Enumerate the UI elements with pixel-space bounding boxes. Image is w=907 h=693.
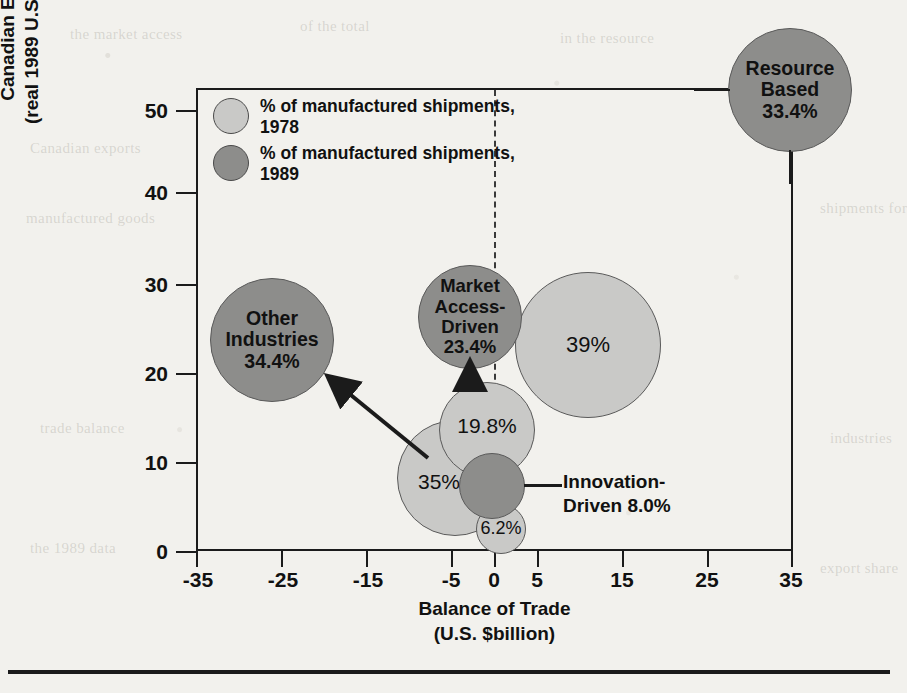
x-tick-label-35: 35 [767,568,815,592]
x-tick-mark--15 [366,551,368,567]
legend-swatch-dark-circle-icon [213,145,249,181]
x-tick-mark-15 [622,551,624,567]
x-axis-title-line2: (U.S. $billion) [196,622,793,647]
ghost-text: trade balance [40,420,125,437]
resource-based-leader-line-bottom [789,150,791,184]
y-tick-label-20: 20 [120,362,168,386]
other-industries-arrow [300,330,480,490]
x-tick-mark-35 [791,551,793,567]
bubble-resource-based[interactable]: Resource Based 33.4% [728,28,852,152]
ghost-text: the market access [70,26,183,43]
legend-item-1978: % of manufactured shipments, 1978 [213,96,515,137]
market-access-arrow [460,360,500,410]
x-tick-mark-25 [707,551,709,567]
x-tick-label-25: 25 [683,568,731,592]
y-tick-label-40: 40 [120,181,168,205]
bubble-market-access-1978[interactable]: 39% [515,272,661,418]
x-tick-mark--25 [281,551,283,567]
y-axis-title-line2: (real 1989 U.S. $billion) [20,0,44,150]
x-tick-label-15: 15 [598,568,646,592]
ghost-text: the 1989 data [30,540,116,557]
x-tick-mark--35 [196,551,198,567]
bubble-label-resource-based: Resource Based 33.4% [746,58,835,122]
y-tick-label-30: 30 [120,273,168,297]
y-tick-mark-0 [176,551,196,553]
x-tick-label--35: -35 [170,568,226,592]
legend-label-1989: % of manufactured shipments, 1989 [260,143,515,184]
y-tick-label-0: 0 [120,540,168,564]
x-tick-mark--5 [451,551,453,567]
y-tick-label-10: 10 [120,451,168,475]
ghost-text: manufactured goods [26,210,155,227]
y-axis-title-line1: Canadian Exports [0,0,20,150]
y-tick-label-50: 50 [120,99,168,123]
x-tick-label--5: -5 [427,568,475,592]
legend-swatch-light-circle-icon [213,98,249,134]
x-tick-label-0: 0 [476,568,512,592]
legend: % of manufactured shipments, 1978 % of m… [213,96,515,185]
legend-item-1989: % of manufactured shipments, 1989 [213,143,515,184]
bubble-label-6-2-percent: 6.2% [480,519,521,539]
y-axis-title: Canadian Exports (real 1989 U.S. $billio… [0,0,44,150]
ghost-text: of the total [300,18,370,35]
y-tick-mark-30 [176,284,196,286]
innovation-driven-leader-line [524,484,562,487]
ghost-text: in the resource [560,30,654,47]
ghost-text: export share [820,560,899,577]
y-tick-mark-40 [176,192,196,194]
legend-label-1978: % of manufactured shipments, 1978 [260,96,515,137]
x-axis-title: Balance of Trade (U.S. $billion) [196,597,793,646]
x-tick-label-5: 5 [519,568,555,592]
x-axis-title-line1: Balance of Trade [196,597,793,622]
ghost-text: Canadian exports [30,140,141,157]
bubble-label-39-percent: 39% [566,333,610,357]
x-tick-label--25: -25 [255,568,311,592]
ghost-text: industries [830,430,892,447]
page-bottom-rule [8,670,890,674]
y-tick-mark-20 [176,373,196,375]
resource-based-leader-line-left [694,89,730,91]
x-tick-mark-5 [537,551,539,567]
innovation-driven-callout: Innovation- Driven 8.0% [563,470,671,518]
ghost-text: shipments for [820,200,907,217]
y-tick-mark-50 [176,110,196,112]
x-tick-label--15: -15 [340,568,396,592]
y-tick-mark-10 [176,462,196,464]
